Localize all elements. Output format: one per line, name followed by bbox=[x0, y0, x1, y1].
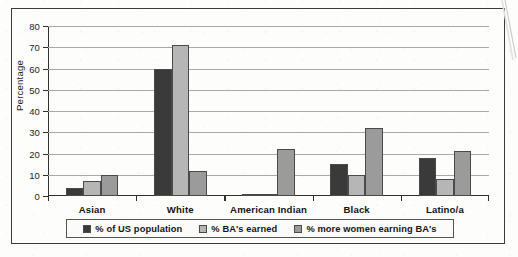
x-axis-separator-tick bbox=[224, 196, 225, 201]
chart-legend: % of US population% BA's earned% more wo… bbox=[66, 219, 454, 238]
x-axis-category-label: Asian bbox=[79, 204, 106, 215]
legend-swatch-icon bbox=[294, 225, 302, 233]
legend-label: % more women earning BA's bbox=[306, 224, 436, 234]
gridline bbox=[48, 26, 489, 27]
y-axis-tick-label: 20 bbox=[29, 148, 40, 159]
legend-swatch-icon bbox=[199, 225, 207, 233]
legend-item: % more women earning BA's bbox=[294, 224, 436, 234]
legend-label: % BA's earned bbox=[211, 224, 277, 234]
bar bbox=[330, 164, 348, 196]
y-axis-tick bbox=[43, 175, 48, 176]
y-axis-title: Percentage bbox=[14, 60, 25, 111]
bar bbox=[365, 128, 383, 196]
x-axis-category-label: Latino/a bbox=[426, 204, 464, 215]
bar bbox=[189, 171, 207, 197]
legend-swatch-icon bbox=[83, 225, 91, 233]
y-axis-tick bbox=[43, 26, 48, 27]
legend-item: % BA's earned bbox=[199, 224, 277, 234]
y-axis-tick bbox=[43, 132, 48, 133]
bar bbox=[242, 194, 260, 196]
x-axis-separator-tick bbox=[136, 196, 137, 201]
bar bbox=[66, 188, 84, 197]
legend-item: % of US population bbox=[83, 224, 182, 234]
bar bbox=[154, 69, 172, 197]
y-axis-tick bbox=[43, 69, 48, 70]
y-axis-tick-label: 0 bbox=[35, 191, 40, 202]
x-axis-end-tick bbox=[48, 196, 49, 201]
bar bbox=[83, 181, 101, 196]
gridline bbox=[48, 69, 489, 70]
y-axis-tick bbox=[43, 90, 48, 91]
x-axis-separator-tick bbox=[313, 196, 314, 201]
y-axis-tick bbox=[43, 47, 48, 48]
x-axis-category-label: American Indian bbox=[230, 204, 307, 215]
gridline bbox=[48, 90, 489, 91]
y-axis-tick-label: 30 bbox=[29, 127, 40, 138]
y-axis-tick-label: 80 bbox=[29, 21, 40, 32]
gridline bbox=[48, 154, 489, 155]
legend-label: % of US population bbox=[95, 224, 182, 234]
y-axis-tick-label: 50 bbox=[29, 84, 40, 95]
bar bbox=[436, 179, 454, 196]
gridline bbox=[48, 47, 489, 48]
bar bbox=[419, 158, 437, 196]
bar bbox=[277, 149, 295, 196]
bar bbox=[454, 151, 472, 196]
y-axis-tick-label: 10 bbox=[29, 169, 40, 180]
gridline bbox=[48, 111, 489, 112]
x-axis-category-label: White bbox=[167, 204, 194, 215]
plot-area: 01020304050607080 AsianWhiteAmerican Ind… bbox=[48, 26, 489, 196]
gridline bbox=[48, 132, 489, 133]
y-axis-tick-label: 70 bbox=[29, 42, 40, 53]
chart-figure: Percentage 01020304050607080 AsianWhiteA… bbox=[0, 0, 518, 257]
bar bbox=[348, 175, 366, 196]
x-axis-category-label: Black bbox=[344, 204, 370, 215]
x-axis-end-tick bbox=[488, 196, 489, 201]
bar bbox=[172, 45, 190, 196]
y-axis-tick bbox=[43, 111, 48, 112]
bar bbox=[260, 194, 278, 196]
y-axis-tick bbox=[43, 154, 48, 155]
bar bbox=[101, 175, 119, 196]
y-axis-tick-label: 60 bbox=[29, 63, 40, 74]
x-axis-separator-tick bbox=[401, 196, 402, 201]
y-axis-tick-label: 40 bbox=[29, 106, 40, 117]
